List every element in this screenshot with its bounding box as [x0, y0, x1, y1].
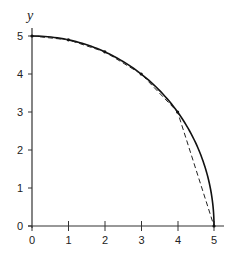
- vertex-dot: [67, 38, 70, 41]
- x-tick-label: 5: [211, 234, 217, 246]
- vertex-dot: [176, 110, 179, 113]
- y-tick-label: 5: [17, 30, 23, 42]
- x-tick-label: 3: [139, 234, 145, 246]
- x-ticks: 0 1 2 3 4 5: [29, 221, 217, 246]
- x-tick-label: 0: [29, 234, 35, 246]
- quarter-circle-curve: [32, 36, 214, 226]
- x-tick-label: 2: [102, 234, 108, 246]
- x-tick-label: 1: [66, 234, 72, 246]
- y-tick-label: 1: [17, 182, 23, 194]
- y-tick-label: 4: [17, 68, 23, 80]
- x-tick-label: 4: [175, 234, 181, 246]
- y-tick-label: 0: [17, 220, 23, 232]
- vertex-dot: [103, 50, 106, 53]
- dashed-polyline: [32, 36, 214, 226]
- chart: y 0 1 2 3 4 5 0 1 2 3 4 5: [0, 0, 228, 268]
- y-axis-label: y: [25, 8, 34, 23]
- vertex-dot: [30, 34, 33, 37]
- y-tick-label: 3: [17, 106, 23, 118]
- vertex-dot: [140, 72, 143, 75]
- y-ticks: 0 1 2 3 4 5: [17, 30, 32, 232]
- y-tick-label: 2: [17, 144, 23, 156]
- vertex-dot: [212, 224, 215, 227]
